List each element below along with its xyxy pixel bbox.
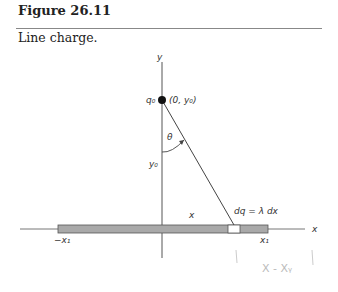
- charge-element: [228, 225, 240, 233]
- left-end-label: −x₁: [54, 235, 71, 245]
- angle-label: θ: [167, 132, 173, 142]
- handwritten-mark: [312, 250, 313, 265]
- right-end-label: x₁: [259, 235, 269, 245]
- handwritten-mark: [236, 250, 237, 263]
- x-axis-label: x: [311, 224, 318, 234]
- charge-label: q₀: [146, 95, 156, 105]
- y-axis-label: y: [156, 52, 163, 62]
- line-charge-diagram: y x q₀ (0, y₀) θ y₀ x dq = λ dx −x₁ x₁ X…: [0, 0, 338, 292]
- distance-line: [162, 100, 234, 225]
- distance-label: y₀: [148, 159, 158, 169]
- point-charge: [158, 96, 166, 104]
- point-coordinate-label: (0, y₀): [169, 95, 196, 105]
- element-label: dq = λ dx: [234, 206, 279, 216]
- handwritten-note: X - Xᵧ: [262, 262, 292, 275]
- position-label: x: [188, 210, 195, 220]
